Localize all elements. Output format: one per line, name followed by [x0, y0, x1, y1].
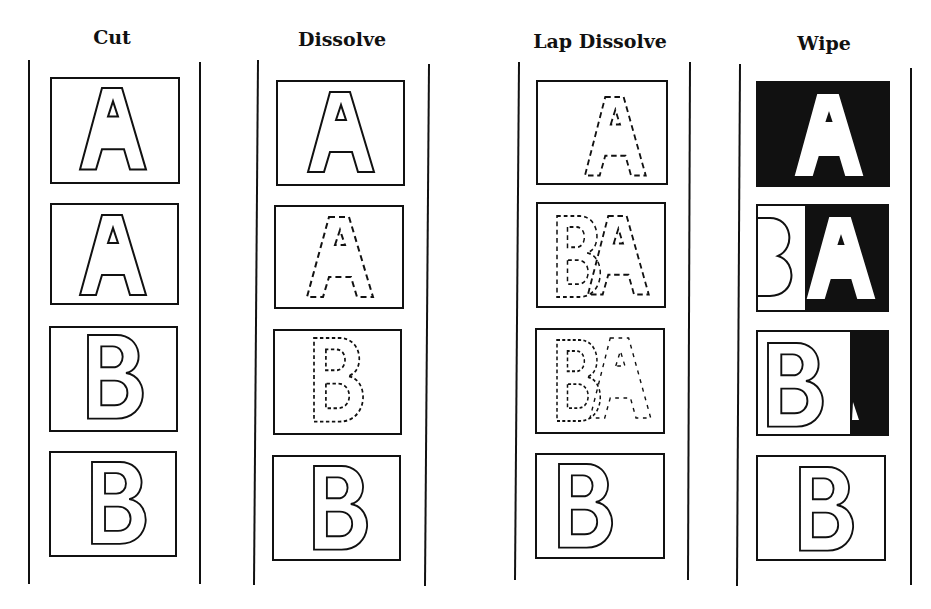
film-strips [0, 0, 931, 609]
transition-diagram: Cut Dissolve Lap Dissolve Wipe [0, 0, 931, 609]
